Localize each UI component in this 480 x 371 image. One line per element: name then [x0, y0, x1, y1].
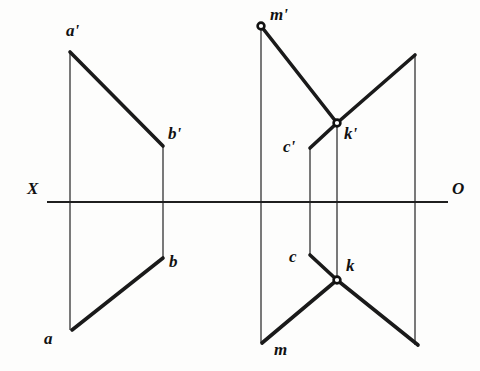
segment-c-prime-k-prime — [310, 123, 337, 148]
segment-k-prime-right — [337, 55, 415, 123]
segment-a-prime-b-prime — [70, 52, 163, 146]
node-dot-k — [334, 277, 341, 284]
node-dots — [258, 23, 341, 284]
segment-a-b — [72, 258, 163, 330]
point-label-b-prime: b' — [168, 125, 181, 142]
point-label-k-prime: k' — [344, 125, 357, 142]
point-label-a: a — [44, 330, 53, 347]
point-label-a-prime: a' — [66, 22, 79, 39]
point-label-b: b — [169, 253, 178, 270]
projection-diagram-svg — [0, 0, 480, 371]
left-figure-projectors — [70, 52, 163, 330]
segment-c-k — [310, 255, 337, 280]
segment-m-k — [262, 280, 337, 343]
node-dot-m-prime — [258, 23, 265, 30]
point-label-c: c — [289, 248, 297, 265]
point-label-k: k — [346, 257, 355, 274]
diagram-canvas: X O a' b' b a m' k' c' c k m — [0, 0, 480, 371]
left-figure-segments — [70, 52, 163, 330]
point-label-m: m — [274, 341, 287, 358]
node-dot-k-prime — [334, 120, 341, 127]
segment-m-prime-k-prime — [261, 26, 337, 123]
axis-label-x: X — [27, 180, 38, 197]
right-figure-segments — [261, 26, 418, 345]
point-label-c-prime: c' — [283, 138, 295, 155]
axis-label-o: O — [452, 180, 464, 197]
point-label-m-prime: m' — [270, 6, 288, 23]
segment-k-right — [337, 280, 418, 345]
